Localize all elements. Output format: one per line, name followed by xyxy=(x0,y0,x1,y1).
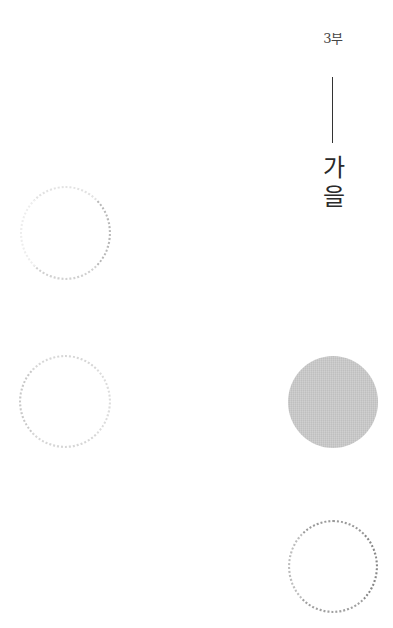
part-label: 3부 xyxy=(318,28,348,47)
title-char-2: 을 xyxy=(323,183,345,212)
chapter-title: 가 을 xyxy=(314,154,354,212)
dotted-circle-upper-left xyxy=(20,186,111,280)
dotted-circle-middle-left xyxy=(19,355,111,448)
vertical-divider xyxy=(332,77,333,143)
title-char-1: 가 xyxy=(323,154,345,183)
filled-circle-middle-right xyxy=(288,356,378,448)
dotted-circle-lower-right xyxy=(288,520,378,613)
